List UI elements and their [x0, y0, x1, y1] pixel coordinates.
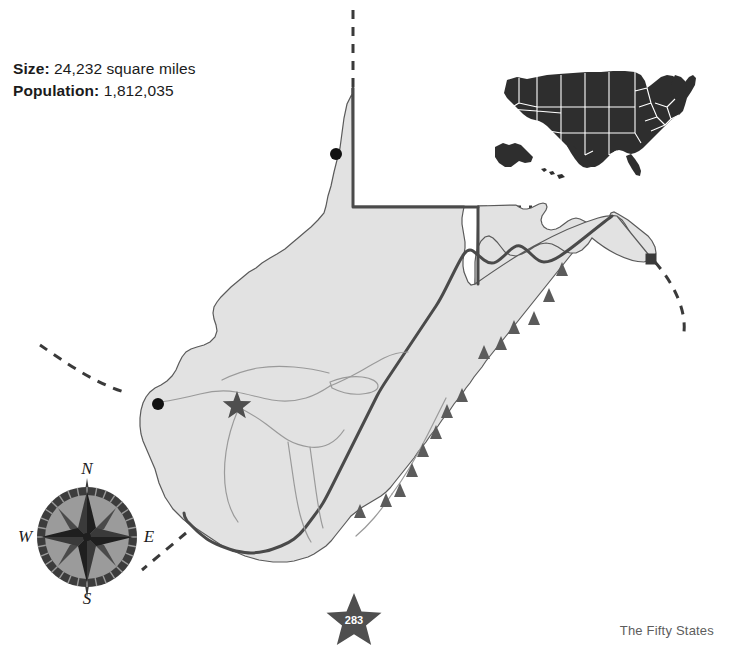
dashed-line-west [40, 345, 124, 392]
compass-north-label: N [80, 459, 94, 478]
population-label: Population: [13, 82, 99, 99]
size-label: Size: [13, 60, 50, 77]
page-star-svg: 283 [325, 592, 383, 648]
us-mainland [504, 71, 696, 176]
state-statistics: Size: 24,232 square miles Population: 1,… [13, 58, 196, 103]
us-mainland-silhouette [504, 71, 696, 167]
population-value: 1,812,035 [104, 82, 174, 99]
dashed-line-southeast [655, 262, 684, 332]
square-marker-group [646, 254, 657, 265]
square-point-marker[interactable] [646, 254, 657, 265]
compass-east-label: E [143, 527, 155, 546]
population-stat-row: Population: 1,812,035 [13, 80, 196, 102]
compass-rose: N S W E [17, 458, 157, 608]
us-locator-inset[interactable] [489, 63, 704, 185]
us-florida [626, 154, 641, 176]
border-north-panhandle [353, 88, 478, 207]
size-value: 24,232 square miles [54, 60, 195, 77]
mountain-triangle-marker[interactable] [394, 483, 406, 497]
size-stat-row: Size: 24,232 square miles [13, 58, 196, 80]
mountain-triangle-marker[interactable] [528, 311, 540, 325]
city-dot-marker[interactable] [330, 148, 342, 160]
us-alaska [495, 143, 533, 167]
compass-rose-svg: N S W E [17, 458, 157, 608]
page-number-text: 283 [345, 614, 363, 626]
city-dot-marker[interactable] [152, 398, 164, 410]
compass-hub [83, 533, 91, 541]
mountain-triangle-marker[interactable] [543, 288, 555, 302]
us-inset-svg [489, 63, 704, 185]
compass-west-label: W [18, 527, 34, 546]
book-series-caption: The Fifty States [620, 623, 714, 638]
us-hawaii [541, 168, 565, 179]
page-number-star: 283 [325, 592, 383, 648]
